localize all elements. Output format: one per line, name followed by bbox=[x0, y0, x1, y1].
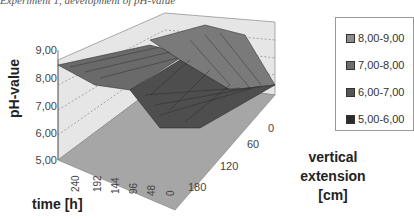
x-tick: 48 bbox=[146, 185, 157, 196]
legend-label: 6,00-7,00 bbox=[358, 86, 404, 98]
legend-item: 5,00-6,00 bbox=[346, 113, 404, 125]
legend-label: 5,00-6,00 bbox=[358, 113, 404, 125]
legend-swatch-icon bbox=[346, 34, 355, 43]
z-tick: 0 bbox=[268, 122, 274, 134]
z-tick: 180 bbox=[188, 181, 206, 193]
legend-swatch-icon bbox=[346, 61, 355, 70]
legend-item: 6,00-7,00 bbox=[346, 86, 404, 98]
x-tick: 192 bbox=[92, 175, 103, 192]
y-axis-label: pH-value bbox=[6, 59, 22, 118]
x-tick: 144 bbox=[110, 177, 121, 194]
z-tick: 120 bbox=[220, 160, 238, 172]
y-tick: 6,00 bbox=[33, 127, 57, 139]
legend-label: 7,00-8,00 bbox=[358, 59, 404, 71]
x-tick: 240 bbox=[70, 175, 81, 192]
y-tick: 7,00 bbox=[33, 100, 57, 112]
x-tick: 96 bbox=[128, 183, 139, 194]
y-tick: 5,00 bbox=[33, 154, 57, 166]
legend-item: 8,00-9,00 bbox=[346, 32, 404, 44]
legend-item: 7,00-8,00 bbox=[346, 59, 404, 71]
legend-swatch-icon bbox=[346, 88, 355, 97]
legend-swatch-icon bbox=[346, 115, 355, 124]
x-tick: 0 bbox=[165, 190, 176, 196]
x-axis-label: time [h] bbox=[32, 196, 83, 212]
z-axis-label: vertical extension [cm] bbox=[293, 148, 373, 205]
y-tick: 9,00 bbox=[33, 44, 57, 56]
legend-label: 8,00-9,00 bbox=[358, 32, 404, 44]
z-tick: 60 bbox=[247, 138, 259, 150]
legend: 8,00-9,00 7,00-8,00 6,00-7,00 5,00-6,00 bbox=[335, 17, 414, 131]
y-tick: 8,00 bbox=[33, 72, 57, 84]
